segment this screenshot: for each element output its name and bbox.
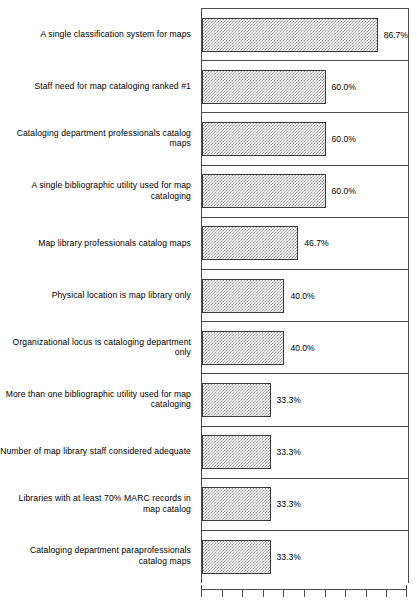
bar-value-label: 33.3% [277,447,301,457]
bar-row: 33.3% [202,427,408,479]
bar [202,226,298,260]
bar-value-label: 33.3% [277,499,301,509]
axis-tick [201,590,202,597]
bar-wrapper: 46.7% [202,218,408,269]
axis-tick [366,590,367,597]
bar [202,331,284,365]
bar-wrapper: 86.7% [202,9,408,60]
category-label: Organizational locus is cataloging depar… [0,321,196,373]
bar [202,18,378,52]
axis-tick [345,590,346,597]
bar-row: 86.7% [202,9,408,61]
axis-tick [222,590,223,597]
category-label: A single classification system for maps [0,8,196,60]
bar-wrapper: 60.0% [202,166,408,217]
bar-value-label: 40.0% [290,291,314,301]
bar-wrapper: 33.3% [202,479,408,530]
category-label: Number of map library staff considered a… [0,426,196,478]
category-label: Cataloging department paraprofessionals … [0,530,196,582]
bar-value-label: 46.7% [304,238,328,248]
bar-value-label: 60.0% [332,186,356,196]
axis-tick [263,590,264,597]
bar [202,383,271,417]
bar-row: 40.0% [202,270,408,322]
axis-tick [386,590,387,597]
category-label: Cataloging department professionals cata… [0,112,196,164]
bar-wrapper: 60.0% [202,113,408,164]
bar-row: 46.7% [202,218,408,270]
bar-wrapper: 60.0% [202,61,408,112]
plot-area: 86.7%60.0%60.0%60.0%46.7%40.0%40.0%33.3%… [201,8,409,583]
bar-value-label: 33.3% [277,395,301,405]
bar [202,279,284,313]
bar-row: 33.3% [202,479,408,531]
horizontal-bar-chart: A single classification system for mapsS… [0,0,417,612]
axis-tick [304,590,305,597]
bar-row: 33.3% [202,374,408,426]
category-label: Libraries with at least 70% MARC records… [0,478,196,530]
bar [202,487,271,521]
category-label: More than one bibliographic utility used… [0,373,196,425]
bar-wrapper: 33.3% [202,531,408,583]
bar-row: 60.0% [202,166,408,218]
category-label: Map library professionals catalog maps [0,217,196,269]
bar-wrapper: 33.3% [202,427,408,478]
bar-value-label: 86.7% [384,30,408,40]
bar-value-label: 33.3% [277,552,301,562]
bar-row: 33.3% [202,531,408,583]
axis-tick [242,590,243,597]
bar-value-label: 60.0% [332,134,356,144]
bar-wrapper: 40.0% [202,270,408,321]
axis-end-cap [201,585,202,591]
x-axis-ticks [201,590,407,597]
bar-wrapper: 40.0% [202,322,408,373]
bar-value-label: 40.0% [290,343,314,353]
category-label: Physical location is map library only [0,269,196,321]
bar-wrapper: 33.3% [202,374,408,425]
bar [202,174,326,208]
category-label: A single bibliographic utility used for … [0,165,196,217]
bar [202,122,326,156]
bar [202,70,326,104]
axis-tick [325,590,326,597]
axis-tick [283,590,284,597]
category-label-column: A single classification system for mapsS… [0,8,196,582]
bar-value-label: 60.0% [332,82,356,92]
bar-row: 60.0% [202,113,408,165]
axis-tick [406,590,407,597]
bar [202,435,271,469]
bar [202,540,271,574]
bar-row: 60.0% [202,61,408,113]
bar-row: 40.0% [202,322,408,374]
category-label: Staff need for map cataloging ranked #1 [0,60,196,112]
axis-end-cap [406,585,407,591]
